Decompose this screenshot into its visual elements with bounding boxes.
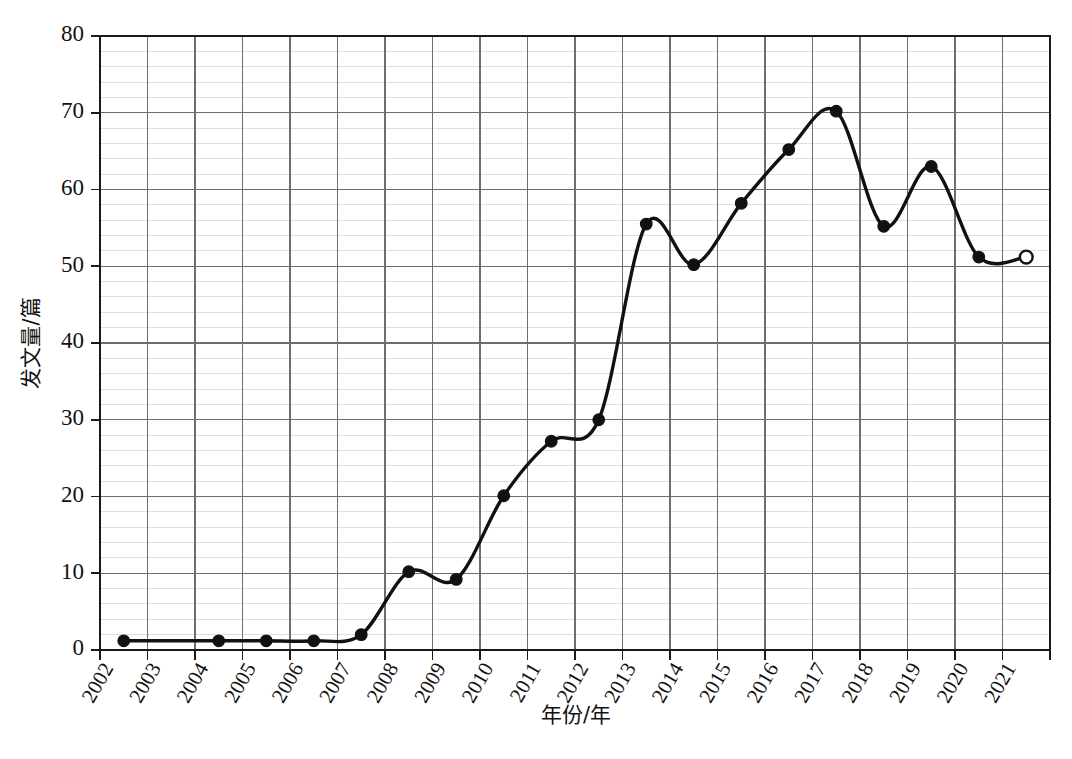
x-axis-tick-label: 2014 bbox=[647, 658, 689, 707]
x-axis-tick-label: 2008 bbox=[362, 659, 404, 707]
y-axis-tick-label: 80 bbox=[61, 21, 84, 46]
x-axis-tick-label: 2002 bbox=[77, 659, 119, 707]
x-axis-tick-label: 2012 bbox=[552, 659, 594, 707]
y-axis-tick-label: 70 bbox=[61, 98, 84, 123]
data-point-marker bbox=[783, 144, 795, 156]
x-axis-tick-label: 2018 bbox=[837, 659, 879, 707]
x-axis-tick-label: 2010 bbox=[457, 659, 499, 707]
y-axis-tick-label: 40 bbox=[61, 328, 84, 353]
data-point-marker bbox=[545, 435, 557, 447]
data-point-marker bbox=[925, 161, 937, 173]
x-axis-tick-label: 2009 bbox=[409, 659, 451, 707]
y-axis-title: 发文量/篇 bbox=[19, 297, 43, 388]
data-point-marker bbox=[688, 259, 700, 271]
x-axis-title: 年份/年 bbox=[541, 703, 611, 727]
data-point-marker bbox=[973, 251, 985, 263]
data-point-marker bbox=[403, 566, 415, 578]
x-axis-tick-label: 2021 bbox=[979, 659, 1021, 707]
data-point-marker bbox=[878, 221, 890, 233]
x-axis-tick-label: 2007 bbox=[314, 659, 356, 707]
y-axis-tick-label: 0 bbox=[73, 635, 85, 660]
data-point-marker bbox=[118, 635, 130, 647]
data-point-marker bbox=[640, 218, 652, 230]
x-axis-tick-label: 2006 bbox=[267, 659, 309, 707]
x-axis-tick-label: 2020 bbox=[932, 659, 974, 707]
data-point-marker bbox=[213, 635, 225, 647]
line-chart-canvas: 01020304050607080 2002200320042005200620… bbox=[0, 0, 1072, 759]
data-point-marker bbox=[593, 414, 605, 426]
x-axis-tick-label: 2016 bbox=[742, 659, 784, 707]
data-point-marker bbox=[355, 629, 367, 641]
data-point-marker bbox=[450, 574, 462, 586]
y-axis-tick-label: 60 bbox=[61, 175, 84, 200]
x-axis-tick-label: 2015 bbox=[694, 659, 736, 707]
data-point-marker-open bbox=[1020, 251, 1033, 264]
y-axis-tick-label: 50 bbox=[61, 252, 84, 277]
x-axis-tick-label: 2019 bbox=[884, 659, 926, 707]
data-point-marker bbox=[498, 490, 510, 502]
data-point-marker bbox=[735, 198, 747, 210]
x-axis-tickmarks bbox=[100, 650, 1050, 660]
data-point-marker bbox=[260, 635, 272, 647]
chart-figure: 01020304050607080 2002200320042005200620… bbox=[0, 0, 1072, 759]
x-axis-tick-label: 2005 bbox=[219, 659, 261, 707]
y-axis-tickmarks bbox=[91, 36, 100, 650]
x-axis-tick-labels: 2002200320042005200620072008200920102011… bbox=[77, 658, 1021, 707]
x-axis-tick-label: 2013 bbox=[599, 659, 641, 707]
x-axis-tick-label: 2017 bbox=[789, 659, 831, 707]
y-axis-tick-label: 20 bbox=[61, 482, 84, 507]
x-axis-tick-label: 2004 bbox=[172, 658, 214, 707]
x-axis-tick-label: 2011 bbox=[504, 659, 545, 707]
data-point-marker bbox=[830, 105, 842, 117]
x-axis-tick-label: 2003 bbox=[124, 659, 166, 707]
y-axis-tick-label: 10 bbox=[61, 559, 84, 584]
y-axis-tick-labels: 01020304050607080 bbox=[61, 21, 84, 660]
data-point-marker bbox=[308, 635, 320, 647]
y-axis-tick-label: 30 bbox=[61, 405, 84, 430]
